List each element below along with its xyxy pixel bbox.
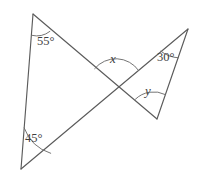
angle-label-y: y: [145, 84, 151, 97]
figure-canvas: [0, 0, 199, 175]
angle-label-30: 30°: [157, 51, 175, 64]
segment-top-left-to-bottom-right: [33, 14, 157, 119]
angle-label-55: 55°: [37, 35, 55, 48]
arc-angle-x: [95, 59, 139, 71]
geometry-figure: 55° 45° 30° x y: [0, 0, 199, 175]
segment-top-left-to-bottom-left: [21, 14, 33, 169]
angle-label-45: 45°: [25, 132, 43, 145]
angle-label-x: x: [110, 52, 116, 65]
